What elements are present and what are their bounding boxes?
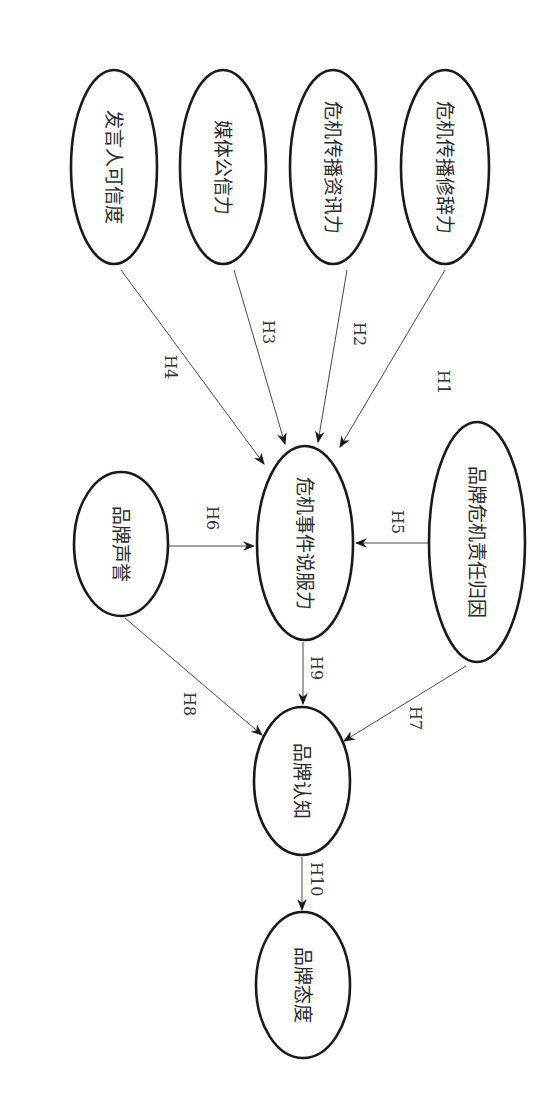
node-label-speaker: 发言人可信度 [103, 110, 125, 224]
node-media: 媒体公信力 [180, 70, 266, 264]
node-cognition: 品牌认知 [254, 707, 350, 855]
edge-label-h5: H5 [388, 510, 407, 534]
node-label-media: 媒体公信力 [212, 120, 234, 215]
edge-label-h3: H3 [259, 320, 278, 344]
edge-h8 [125, 618, 262, 735]
node-attitude: 品牌态度 [256, 912, 350, 1058]
path-diagram: H1 H2 H3 H4 H5 H6 H7 H8 H9 H10 危机传播修辞力 危… [0, 0, 558, 1117]
edge-h1 [340, 270, 445, 447]
node-label-rhetoric: 危机传播修辞力 [434, 101, 456, 234]
edge-label-h1: H1 [434, 370, 453, 394]
edge-label-h4: H4 [161, 355, 180, 379]
edge-label-h8: H8 [180, 692, 199, 716]
edge-label-h9: H9 [307, 656, 326, 680]
edge-label-h7: H7 [406, 706, 425, 730]
node-rhetoric: 危机传播修辞力 [401, 70, 489, 264]
node-reputation: 品牌声誉 [74, 472, 168, 616]
edge-label-h10: H10 [307, 862, 326, 896]
node-persuasion: 危机事件说服力 [257, 446, 353, 640]
node-label-persuasion: 危机事件说服力 [294, 477, 316, 610]
node-label-reputation: 品牌声誉 [110, 506, 132, 582]
node-label-attitude: 品牌态度 [292, 947, 314, 1023]
edge-h3 [234, 270, 285, 444]
node-speaker: 发言人可信度 [71, 70, 157, 264]
edge-h2 [318, 270, 347, 442]
edge-h7 [344, 666, 466, 741]
node-info: 危机传播资讯力 [290, 70, 376, 264]
node-label-attribution: 品牌危机责任归因 [466, 466, 488, 618]
node-label-cognition: 品牌认知 [291, 743, 313, 819]
edge-label-h2: H2 [350, 322, 369, 346]
edge-label-h6: H6 [203, 506, 222, 530]
node-attribution: 品牌危机责任归因 [429, 422, 525, 662]
node-label-info: 危机传播资讯力 [322, 101, 344, 234]
